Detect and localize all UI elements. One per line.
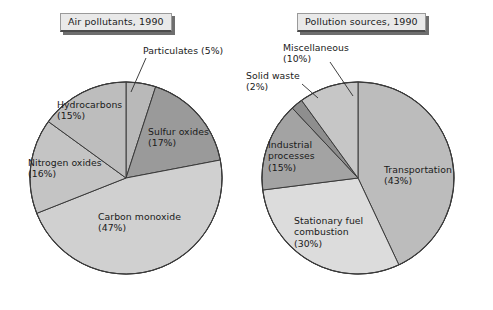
chart-title-pollution-sources: Pollution sources, 1990 xyxy=(297,13,426,32)
slice-label-miscellaneous: Miscellaneous (10%) xyxy=(283,42,349,65)
slice-label-nitrogen-oxides: Nitrogen oxides (16%) xyxy=(28,157,102,180)
slice-label-transportation: Transportation (43%) xyxy=(384,164,452,187)
slice-label-industrial-processes: Industrial processes (15%) xyxy=(268,139,315,173)
slice-label-carbon-monoxide: Carbon monoxide (47%) xyxy=(98,211,181,234)
slice-label-stationary-fuel-combustion: Stationary fuel combustion (30%) xyxy=(294,215,363,249)
slice-label-particulates: Particulates (5%) xyxy=(143,45,223,56)
chart-title-air-pollutants: Air pollutants, 1990 xyxy=(60,13,172,32)
slice-label-sulfur-oxides: Sulfur oxides (17%) xyxy=(148,126,209,149)
slice-label-solid-waste: Solid waste (2%) xyxy=(246,70,300,93)
slice-label-hydrocarbons: Hydrocarbons (15%) xyxy=(57,99,122,122)
figure-canvas: Air pollutants, 1990 Pollution sources, … xyxy=(0,0,493,310)
